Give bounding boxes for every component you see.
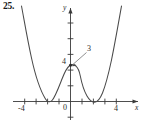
y-axis-arrowhead	[68, 8, 72, 14]
y-intercept-marker-dot	[69, 64, 72, 67]
x-tick-label-4: 4	[114, 105, 118, 113]
annotation-label-3: 3	[87, 45, 91, 53]
x-axis-label: x	[135, 104, 138, 112]
origin-label: 0	[63, 104, 67, 112]
y-tick-label-4: 4	[62, 58, 66, 66]
y-axis-label: y	[63, 4, 66, 12]
x-tick-label-neg4: -4	[18, 105, 25, 113]
callout-leader-line	[73, 53, 87, 65]
